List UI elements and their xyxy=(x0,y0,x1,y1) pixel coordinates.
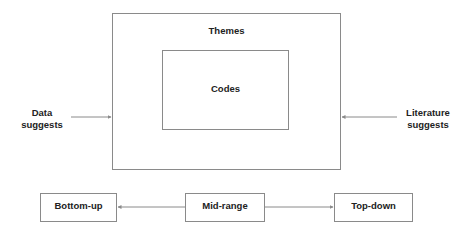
connector-arrows xyxy=(0,0,471,233)
